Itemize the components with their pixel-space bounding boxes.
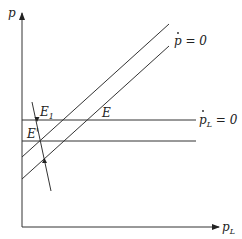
point-E1-label: E1: [39, 105, 54, 121]
phase-diagram: p pL p = 0 pL = 0 E E1 E': [0, 0, 242, 239]
y-axis-label: p: [8, 6, 16, 20]
point-E-label: E: [101, 106, 111, 120]
svg-text:pL = 0: pL = 0: [199, 113, 238, 129]
pLdot-zero-label: pL = 0: [199, 110, 238, 129]
x-axis-label: pL: [222, 220, 235, 236]
pdot-zero-label: p = 0: [174, 32, 207, 48]
svg-text:p = 0: p = 0: [174, 34, 207, 48]
point-E-prime-label: E': [26, 127, 39, 141]
pdot-zero-line-upper: [22, 24, 169, 157]
